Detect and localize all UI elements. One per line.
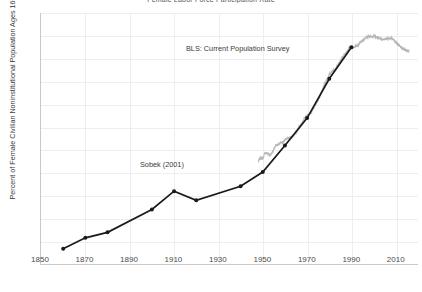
- data-point-marker: [305, 116, 309, 120]
- series-line-bls: [258, 35, 409, 161]
- series-markers-sobek: [61, 45, 353, 251]
- data-point-marker: [106, 230, 110, 234]
- x-axis-tick-label: 1950: [242, 256, 282, 264]
- x-axis-tick-label: 1970: [287, 256, 327, 264]
- x-axis-tick-label: 1850: [20, 256, 60, 264]
- x-axis-tick-label: 1930: [198, 256, 238, 264]
- chart-title: Female Labor Force Participation Rate: [0, 0, 422, 3]
- data-point-marker: [194, 198, 198, 202]
- x-axis-tick-label: 1990: [331, 256, 371, 264]
- data-point-marker: [61, 247, 65, 251]
- x-axis-tick-label: 1890: [109, 256, 149, 264]
- chart-container: Female Labor Force Participation Rate Pe…: [0, 0, 422, 292]
- data-point-marker: [283, 144, 287, 148]
- x-axis-tick-label: 1870: [64, 256, 104, 264]
- annotation-bls: BLS: Current Population Survey: [186, 44, 289, 53]
- data-point-marker: [83, 236, 87, 240]
- data-point-marker: [239, 184, 243, 188]
- x-axis-tick-label: 1910: [153, 256, 193, 264]
- data-point-marker: [261, 170, 265, 174]
- data-point-marker: [327, 77, 331, 81]
- series-line-sobek: [63, 47, 351, 249]
- data-point-marker: [349, 45, 353, 49]
- y-axis-label: Percent of Female Civilian Noninstitutio…: [8, 50, 17, 200]
- x-axis-tick-label: 2010: [376, 256, 416, 264]
- annotation-sobek: Sobek (2001): [140, 160, 184, 169]
- data-point-marker: [150, 208, 154, 212]
- data-point-marker: [172, 189, 176, 193]
